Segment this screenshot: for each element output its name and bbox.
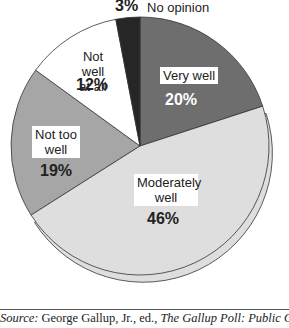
label-very-well: Very well [160,67,218,84]
label-not-too-line1: Not too [35,127,77,142]
source-note: Source: George Gallup, Jr., ed., The Gal… [0,311,289,326]
label-moderately-line1: Moderately [137,175,195,190]
pct-not-too-well: 19% [40,162,72,180]
pct-not-well-at-all: 12% [76,76,108,94]
label-no-opinion: No opinion [147,0,209,15]
pct-very-well: 20% [165,91,197,109]
label-moderately-line2: well [137,190,195,205]
pct-no-opinion: 3% [115,0,138,15]
source-author: George Gallup, Jr., ed., [38,311,160,325]
divider-rule [0,309,289,310]
pct-moderately-well: 46% [147,210,179,228]
label-moderately-well: Moderately well [134,174,198,206]
label-not-too-well: Not too well [32,126,80,158]
label-not-well-line1: Not well [70,49,116,79]
source-prefix: Source: [0,311,38,325]
label-not-too-line2: well [35,142,77,157]
source-title: The Gallup Poll: Public Opinion, [160,311,289,325]
